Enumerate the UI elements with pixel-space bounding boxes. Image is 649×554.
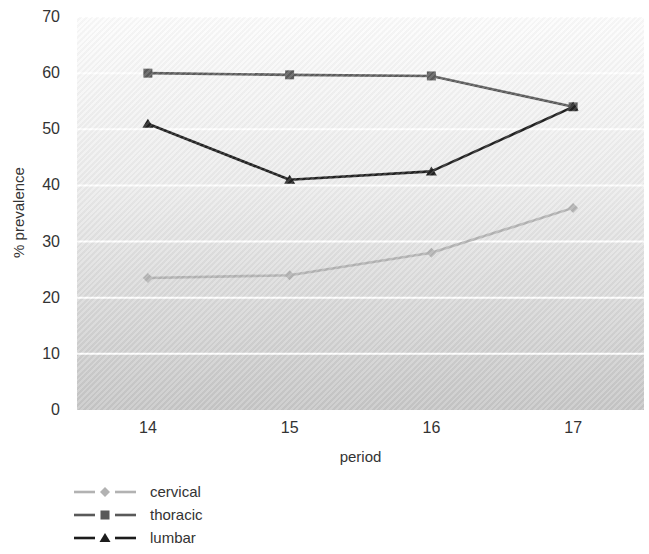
x-tick-label: 14 xyxy=(139,419,157,437)
marker-square-icon xyxy=(427,71,436,80)
legend-line-sample-cervical xyxy=(73,485,137,499)
line-chart-figure: % prevalence 010203040506070 14151617 pe… xyxy=(0,0,649,554)
legend: cervicalthoraciclumbar xyxy=(73,480,203,549)
marker-diamond-icon xyxy=(568,203,578,213)
x-axis-title: period xyxy=(77,448,644,465)
legend-item-label: cervical xyxy=(150,483,201,500)
series-line-thoracic xyxy=(148,73,573,107)
x-tick-label: 16 xyxy=(422,419,440,437)
y-axis-title: % prevalence xyxy=(10,128,27,298)
y-tick-label: 0 xyxy=(0,401,60,419)
series-line-cervical xyxy=(148,208,573,278)
marker-triangle-icon xyxy=(142,119,153,128)
legend-line-sample-thoracic xyxy=(73,508,137,522)
y-tick-label: 60 xyxy=(0,64,60,82)
legend-item-cervical: cervical xyxy=(73,480,203,503)
plot-area xyxy=(77,17,644,410)
y-tick-label: 20 xyxy=(0,289,60,307)
legend-line-sample-lumbar xyxy=(73,531,137,545)
legend-item-thoracic: thoracic xyxy=(73,503,203,526)
marker-square-icon xyxy=(101,510,110,519)
marker-triangle-icon xyxy=(100,533,111,542)
x-tick-label: 15 xyxy=(281,419,299,437)
marker-diamond-icon xyxy=(143,273,153,283)
y-tick-label: 10 xyxy=(0,345,60,363)
y-tick-label: 30 xyxy=(0,233,60,251)
marker-square-icon xyxy=(143,69,152,78)
marker-square-icon xyxy=(285,70,294,79)
marker-diamond-icon xyxy=(100,487,110,497)
x-tick-label: 17 xyxy=(564,419,582,437)
legend-item-label: lumbar xyxy=(150,529,196,546)
marker-diamond-icon xyxy=(426,248,436,258)
series-line-lumbar xyxy=(148,107,573,180)
marker-diamond-icon xyxy=(285,270,295,280)
legend-item-label: thoracic xyxy=(150,506,203,523)
y-tick-label: 70 xyxy=(0,8,60,26)
chart-canvas xyxy=(77,17,644,410)
y-tick-label: 40 xyxy=(0,176,60,194)
y-tick-label: 50 xyxy=(0,120,60,138)
legend-item-lumbar: lumbar xyxy=(73,526,203,549)
